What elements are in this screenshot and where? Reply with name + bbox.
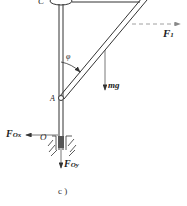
- label-c: C: [38, 0, 44, 6]
- disk-c: [50, 0, 72, 5]
- label-foy: FOy: [64, 159, 79, 169]
- label-f1: F1: [163, 28, 174, 39]
- mechanism-diagram: [0, 0, 187, 206]
- label-o: O: [40, 133, 47, 142]
- diagonal-rod: [60, 0, 147, 99]
- label-fox: FOx: [6, 129, 21, 139]
- bearing-block: [58, 136, 64, 148]
- vertical-rod: [59, 4, 63, 150]
- label-a: A: [50, 95, 55, 103]
- label-mg: mg: [108, 81, 120, 90]
- pin-a: [59, 96, 64, 101]
- figure-caption: c ): [58, 186, 67, 196]
- label-phi: φ: [66, 53, 70, 61]
- angle-arc-phi: [61, 62, 80, 72]
